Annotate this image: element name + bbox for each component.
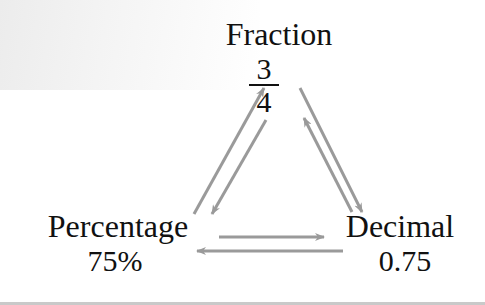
- arrow-fraction-to-decimal: [300, 88, 362, 212]
- arrow-decimal-to-fraction: [304, 118, 352, 212]
- arrows: [0, 0, 485, 305]
- arrow-percentage-to-fraction: [194, 88, 264, 214]
